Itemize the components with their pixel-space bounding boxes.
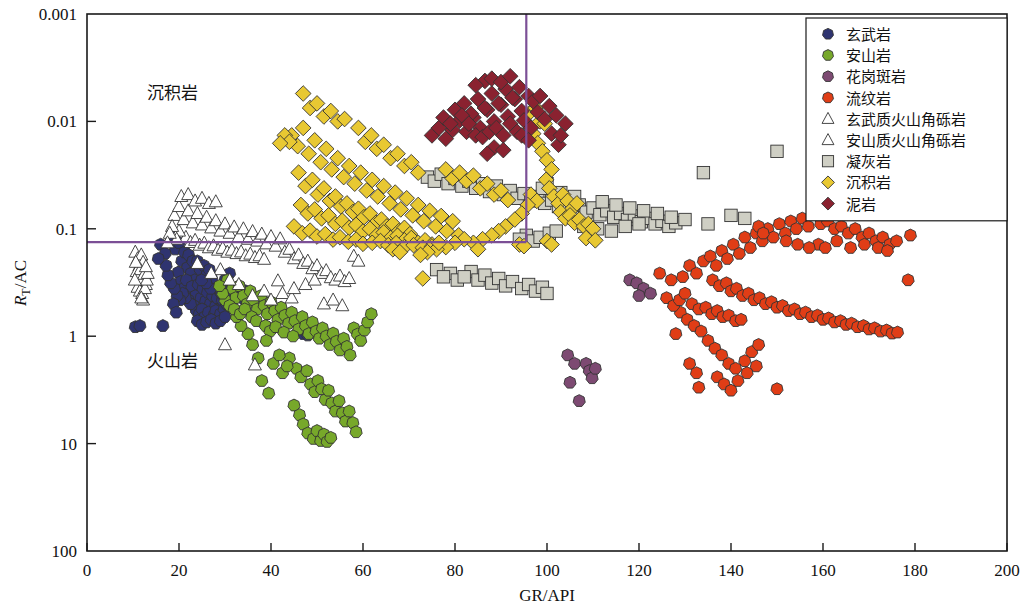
- data-point: [891, 235, 903, 247]
- data-point: [247, 339, 259, 351]
- annotation-volcanic: 火山岩: [147, 351, 198, 371]
- y-tick-label: 1: [69, 327, 78, 346]
- data-point: [415, 271, 431, 287]
- x-tick-label: 160: [810, 561, 836, 580]
- y-axis-title-main: R: [11, 295, 30, 307]
- data-point: [739, 231, 751, 243]
- data-point: [213, 280, 225, 292]
- legend-label-6: 凝灰岩: [846, 153, 891, 171]
- data-point: [333, 395, 345, 407]
- y-tick-label: 0.01: [47, 112, 77, 131]
- data-point: [596, 196, 608, 208]
- data-point: [819, 242, 831, 254]
- data-point: [619, 220, 631, 232]
- data-point: [325, 431, 337, 443]
- x-tick-label: 60: [355, 561, 372, 580]
- data-point: [654, 267, 666, 279]
- series-6: [421, 145, 783, 300]
- chart-svg: 0204060801001201401601802000.0010.010.11…: [0, 0, 1023, 613]
- data-point: [157, 320, 169, 332]
- data-point: [750, 360, 762, 372]
- data-point: [693, 381, 705, 393]
- data-point: [256, 375, 268, 387]
- data-point: [214, 263, 227, 275]
- y-axis-title: RT/AC: [11, 260, 33, 307]
- data-point: [771, 383, 783, 395]
- data-point: [753, 339, 765, 351]
- data-point: [281, 360, 293, 372]
- legend-label-1: 安山岩: [846, 47, 891, 65]
- legend-marker-1: [823, 50, 834, 61]
- legend-marker-3: [823, 92, 834, 103]
- data-point: [721, 253, 733, 265]
- data-point: [287, 282, 300, 294]
- data-point: [624, 202, 636, 214]
- data-point: [273, 349, 285, 361]
- data-point: [569, 357, 581, 369]
- legend-label-3: 流纹岩: [846, 90, 891, 108]
- data-point: [858, 238, 870, 250]
- data-point: [845, 242, 857, 254]
- legend-marker-6: [822, 156, 833, 167]
- x-tick-label: 200: [994, 561, 1020, 580]
- y-tick-label: 100: [52, 542, 78, 561]
- data-point: [271, 274, 284, 286]
- data-point: [679, 213, 691, 225]
- data-point: [881, 245, 893, 257]
- legend-label-7: 沉积岩: [846, 174, 891, 192]
- data-point: [902, 274, 914, 286]
- data-point: [679, 287, 691, 299]
- data-point: [677, 271, 689, 283]
- data-point: [218, 338, 231, 350]
- data-point: [725, 209, 737, 221]
- data-point: [733, 247, 745, 259]
- scatter-plot-figure: 0204060801001201401601802000.0010.010.11…: [0, 0, 1023, 613]
- data-point: [437, 271, 449, 283]
- data-point: [263, 387, 275, 399]
- legend-label-4: 玄武质火山角砾岩: [846, 111, 966, 129]
- data-point: [670, 328, 682, 340]
- data-point: [287, 330, 299, 342]
- series-2: [562, 274, 657, 407]
- y-tick-label: 0.1: [56, 220, 77, 239]
- x-tick-label: 0: [83, 561, 92, 580]
- data-point: [344, 349, 356, 361]
- data-point: [350, 426, 362, 438]
- x-tick-label: 20: [171, 561, 188, 580]
- svg-text:RT/AC: RT/AC: [11, 260, 33, 307]
- data-point: [744, 242, 756, 254]
- data-point: [291, 165, 307, 181]
- data-point: [780, 235, 792, 247]
- data-point: [665, 274, 677, 286]
- data-point: [710, 259, 722, 271]
- legend-label-2: 花岗斑岩: [846, 68, 906, 86]
- data-markers-layer: [128, 68, 916, 447]
- data-point: [690, 267, 702, 279]
- x-tick-label: 140: [718, 561, 744, 580]
- data-point: [735, 313, 747, 325]
- data-point: [684, 357, 696, 369]
- series-4: [128, 245, 154, 305]
- data-point: [792, 238, 804, 250]
- chart-legend: 玄武岩安山岩花岗斑岩流纹岩玄武质火山角砾岩安山质火山角砾岩凝灰岩沉积岩泥岩: [806, 18, 1007, 221]
- data-point: [665, 211, 677, 223]
- data-point: [550, 225, 562, 237]
- data-point: [301, 365, 313, 377]
- y-tick-label: 10: [60, 435, 77, 454]
- data-point: [564, 376, 576, 388]
- data-point: [702, 218, 714, 230]
- x-tick-label: 180: [902, 561, 928, 580]
- legend-label-5: 安山质火山角砾岩: [846, 132, 966, 150]
- data-point: [739, 212, 751, 224]
- data-point: [343, 405, 355, 417]
- legend-label-8: 泥岩: [846, 196, 876, 214]
- legend-marker-2: [823, 71, 834, 82]
- x-tick-label: 120: [626, 561, 652, 580]
- data-point: [690, 367, 702, 379]
- data-point: [644, 287, 656, 299]
- data-point: [541, 287, 553, 299]
- data-point: [891, 326, 903, 338]
- annotation-sedimentary: 沉积岩: [147, 83, 198, 103]
- data-point: [322, 384, 334, 396]
- data-point: [757, 227, 769, 239]
